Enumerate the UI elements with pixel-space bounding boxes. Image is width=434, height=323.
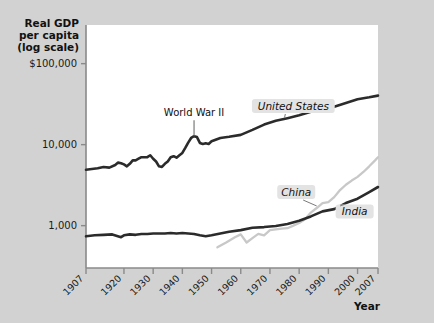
series-label-india: India <box>342 205 368 217</box>
series-label-united-states: United States <box>258 100 330 112</box>
x-axis-title: Year <box>353 300 381 312</box>
annotation-label-world-war-ii: World War II <box>164 107 224 118</box>
y-tick-label: $100,000 <box>29 58 77 69</box>
gdp-per-capita-chart: $100,00010,0001,000190719201930194019501… <box>0 0 434 323</box>
y-axis-title-line: (log scale) <box>17 41 79 53</box>
y-axis-title-line: Real GDP <box>24 17 79 29</box>
series-label-china: China <box>281 186 311 198</box>
y-tick-label: 10,000 <box>42 139 77 150</box>
y-axis-title-line: per capita <box>19 29 79 41</box>
chart-canvas: $100,00010,0001,000190719201930194019501… <box>0 0 434 323</box>
y-tick-label: 1,000 <box>48 220 77 231</box>
